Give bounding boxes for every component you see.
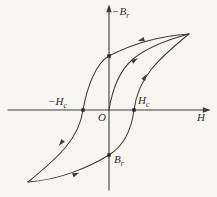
figure-canvas: −Br H O −Hc Hc Br (0, 0, 217, 197)
axes (8, 4, 211, 190)
coercivity-neg-label: −Hc (48, 95, 67, 110)
origin-label-main: O (98, 111, 106, 123)
coercivity-neg-label-sub: c (63, 101, 67, 110)
coercivity-pos-label: Hc (137, 94, 150, 109)
x-axis-label: H (196, 111, 206, 123)
y-axis-arrow-icon (106, 4, 111, 12)
x-axis-label-main: H (196, 111, 206, 123)
remanence-neg-point (107, 153, 110, 156)
coercivity-neg-label-main: −H (48, 95, 64, 107)
remanence-neg-label: Br (114, 153, 124, 168)
labels: −Br H O −Hc Hc Br (48, 5, 206, 168)
y-axis-label: −Br (112, 5, 129, 20)
hysteresis-loop-figure: −Br H O −Hc Hc Br (0, 0, 217, 197)
remanence-neg-label-sub: r (121, 159, 124, 168)
origin-label: O (98, 111, 106, 123)
coercivity-pos-point (132, 108, 135, 111)
left-branch-arrow-icon (57, 139, 65, 147)
coercivity-neg-point (81, 108, 84, 111)
remanence-pos-point (107, 54, 110, 57)
coercivity-pos-label-sub: c (146, 100, 150, 109)
y-axis-label-sub: r (126, 11, 129, 20)
y-axis-label-main: −B (112, 5, 126, 17)
